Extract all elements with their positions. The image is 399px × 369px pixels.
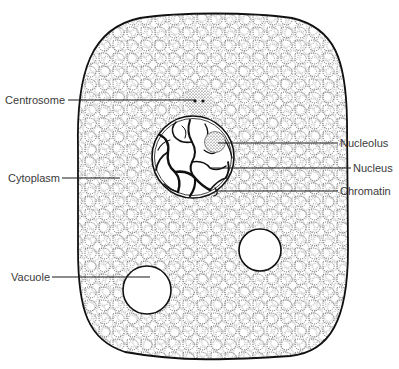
label-cytoplasm: Cytoplasm <box>8 172 60 184</box>
centriole <box>201 99 204 102</box>
label-centrosome: Centrosome <box>5 94 65 106</box>
nucleus <box>152 116 234 198</box>
centrosome <box>185 87 213 115</box>
cell-diagram: Centrosome Cytoplasm Vacuole Nucleolus N… <box>0 0 399 369</box>
label-nucleus: Nucleus <box>353 162 393 174</box>
label-chromatin: Chromatin <box>340 185 391 197</box>
vacuole-large <box>123 266 171 314</box>
vacuole-small <box>239 229 281 271</box>
nucleolus <box>205 132 226 153</box>
label-vacuole: Vacuole <box>11 271 50 283</box>
label-nucleolus: Nucleolus <box>340 137 389 149</box>
